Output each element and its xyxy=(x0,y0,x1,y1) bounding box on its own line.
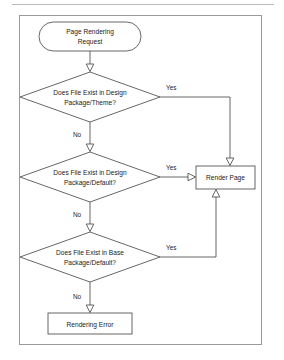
render-page-label: Render Page xyxy=(206,174,245,182)
decision2-label-line2: Package/Default? xyxy=(64,179,116,187)
flowchart-page: Yes Yes Yes No No No Page Rendering Requ… xyxy=(0,0,284,360)
edge-label-yes-2: Yes xyxy=(166,164,176,171)
node-decision-base-package-default[interactable]: Does File Exist in Base Package/Default? xyxy=(20,232,160,282)
decision1-label-line1: Does File Exist in Design xyxy=(53,89,127,97)
edge-decision2-yes-to-render-page xyxy=(160,173,196,181)
node-decision-design-package-theme[interactable]: Does File Exist in Design Package/Theme? xyxy=(20,72,160,122)
edge-decision3-no-to-rendering-error xyxy=(86,282,94,313)
node-render-page[interactable]: Render Page xyxy=(196,166,255,189)
decision3-label-line2: Package/Default? xyxy=(64,259,116,267)
edge-start-to-decision1 xyxy=(86,51,94,72)
edge-label-yes-3: Yes xyxy=(166,244,176,251)
decision3-label-line1: Does File Exist in Base xyxy=(56,249,124,256)
decision2-shape xyxy=(20,152,160,202)
node-decision-design-package-default[interactable]: Does File Exist in Design Package/Defaul… xyxy=(20,152,160,202)
edge-label-no-1: No xyxy=(73,131,82,138)
decision2-label-line1: Does File Exist in Design xyxy=(53,169,127,177)
edge-decision1-yes-to-render-page xyxy=(160,97,234,166)
edge-label-no-2: No xyxy=(73,211,82,218)
rendering-error-label: Rendering Error xyxy=(67,321,115,329)
start-node-label-line1: Page Rendering xyxy=(66,28,114,36)
flowchart-canvas: Yes Yes Yes No No No Page Rendering Requ… xyxy=(0,0,284,360)
start-node-shape xyxy=(39,22,141,51)
node-start-page-rendering-request[interactable]: Page Rendering Request xyxy=(39,22,141,51)
edge-label-yes-1: Yes xyxy=(166,84,176,91)
decision1-shape xyxy=(20,72,160,122)
edge-decision2-no-to-decision3 xyxy=(86,202,94,232)
edge-decision1-no-to-decision2 xyxy=(86,122,94,152)
edge-label-no-3: No xyxy=(73,293,82,300)
node-rendering-error[interactable]: Rendering Error xyxy=(48,313,132,334)
decision3-shape xyxy=(20,232,160,282)
decision1-label-line2: Package/Theme? xyxy=(64,99,116,107)
start-node-label-line2: Request xyxy=(78,38,103,46)
